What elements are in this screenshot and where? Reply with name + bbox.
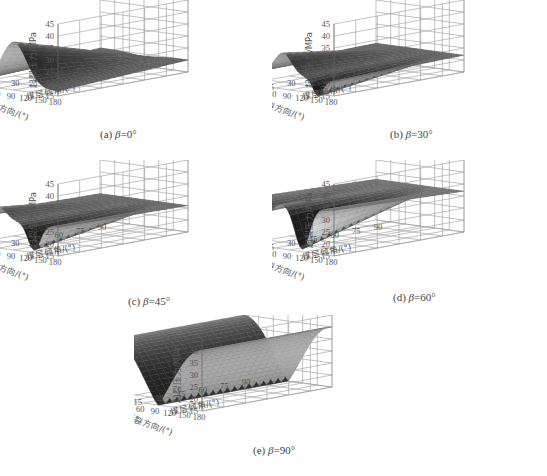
z-tick: 40 <box>46 191 55 201</box>
z-tick: 45 <box>322 19 331 29</box>
caption-prefix: (e) <box>253 444 268 456</box>
z-tick: 40 <box>190 346 199 356</box>
z-tick: 45 <box>46 179 55 189</box>
x-tick: 60 <box>54 70 63 80</box>
z-tick: 30 <box>322 215 331 225</box>
surface-plot-d: 1520253035404503060901201501800153045607… <box>272 160 464 282</box>
y-tick: 60 <box>0 89 1 99</box>
z-tick: 35 <box>322 43 331 53</box>
surface-plot-c: 1520253035404503060901201501800153045607… <box>0 160 188 282</box>
z-tick: 25 <box>322 227 331 237</box>
surface-plot-a: 1520253035404503060901201501800153045607… <box>0 0 188 122</box>
x-tick: 30 <box>287 78 296 88</box>
x-tick: 90 <box>374 222 383 232</box>
z-tick: 25 <box>190 382 199 392</box>
caption-b: (b) β=30° <box>390 128 433 140</box>
caption-suffix: =90° <box>273 444 295 456</box>
x-tick: 60 <box>198 385 207 395</box>
z-tick: 25 <box>46 227 55 237</box>
x-tick: 75 <box>76 66 85 76</box>
z-axis-label: 起裂压力/MPa <box>304 192 314 248</box>
x-tick: 15 <box>272 242 274 252</box>
z-tick: 30 <box>46 215 55 225</box>
y-tick: 90 <box>7 91 16 101</box>
y-tick: 90 <box>283 91 292 101</box>
z-tick: 35 <box>190 358 199 368</box>
x-tick: 30 <box>155 393 164 403</box>
y-tick: 180 <box>49 97 62 107</box>
x-tick: 75 <box>352 66 361 76</box>
x-tick: 30 <box>287 238 296 248</box>
axes: 1520253035404503060901201501800153045607… <box>0 179 106 282</box>
z-tick: 30 <box>46 55 55 65</box>
x-tick: 90 <box>98 222 107 232</box>
z-tick: 40 <box>46 31 55 41</box>
z-axis-label: 起裂压力/MPa <box>28 192 38 248</box>
x-tick: 60 <box>330 230 339 240</box>
z-tick: 35 <box>46 203 55 213</box>
x-tick: 30 <box>11 78 20 88</box>
caption-suffix: =0° <box>120 128 136 140</box>
x-tick: 75 <box>220 381 229 391</box>
x-tick: 75 <box>352 226 361 236</box>
y-tick: 180 <box>325 97 338 107</box>
panel-d: 1520253035404503060901201501800153045607… <box>272 160 547 288</box>
caption-suffix: =30° <box>411 128 433 140</box>
surface-plot-b: 1520253035404503060901201501800153045607… <box>272 0 464 122</box>
panel-c: 1520253035404503060901201501800153045607… <box>0 160 270 288</box>
z-axis-label: 起裂压力/MPa <box>172 347 182 403</box>
x-tick: 30 <box>11 238 20 248</box>
panel-b: 1520253035404503060901201501800153045607… <box>272 0 547 128</box>
caption-prefix: (a) <box>100 128 115 140</box>
caption-prefix: (b) <box>390 128 406 140</box>
caption-d: (d) β=60° <box>393 291 436 303</box>
x-tick: 15 <box>272 82 274 92</box>
caption-c: (c) β=45° <box>128 295 170 307</box>
z-tick: 45 <box>322 179 331 189</box>
z-tick: 35 <box>322 203 331 213</box>
y-tick: 90 <box>7 251 16 261</box>
y-tick: 90 <box>283 251 292 261</box>
z-tick: 40 <box>322 31 331 41</box>
caption-suffix: =45° <box>148 295 170 307</box>
x-tick: 60 <box>54 230 63 240</box>
z-tick: 30 <box>322 55 331 65</box>
surface-plot-e: 1520253035404503060901201501800153045607… <box>134 315 332 437</box>
y-tick: 180 <box>325 257 338 267</box>
panel-e: 1520253035404503060901201501800153045607… <box>134 315 419 443</box>
caption-prefix: (c) <box>128 295 143 307</box>
y-tick: 90 <box>151 406 160 416</box>
x-tick: 15 <box>134 397 142 407</box>
y-tick: 180 <box>49 257 62 267</box>
caption-e: (e) β=90° <box>253 444 295 456</box>
surface <box>272 179 464 249</box>
x-tick: 60 <box>330 70 339 80</box>
y-tick: 60 <box>0 249 1 259</box>
z-tick: 25 <box>46 67 55 77</box>
caption-prefix: (d) <box>393 291 409 303</box>
z-tick: 25 <box>322 67 331 77</box>
x-tick: 75 <box>76 226 85 236</box>
x-tick: 90 <box>98 62 107 72</box>
z-tick: 45 <box>190 334 199 344</box>
z-axis-label: 起裂压力/MPa <box>28 32 38 88</box>
y-tick: 180 <box>193 412 206 422</box>
z-tick: 40 <box>322 191 331 201</box>
x-tick: 90 <box>242 377 251 387</box>
panel-a: 1520253035404503060901201501800153045607… <box>0 0 270 128</box>
z-axis-label: 起裂压力/MPa <box>304 32 314 88</box>
z-tick: 45 <box>46 19 55 29</box>
surface <box>134 315 332 405</box>
x-tick: 90 <box>374 62 383 72</box>
caption-suffix: =60° <box>414 291 436 303</box>
z-tick: 35 <box>46 43 55 53</box>
caption-a: (a) β=0° <box>100 128 137 140</box>
z-tick: 30 <box>190 370 199 380</box>
